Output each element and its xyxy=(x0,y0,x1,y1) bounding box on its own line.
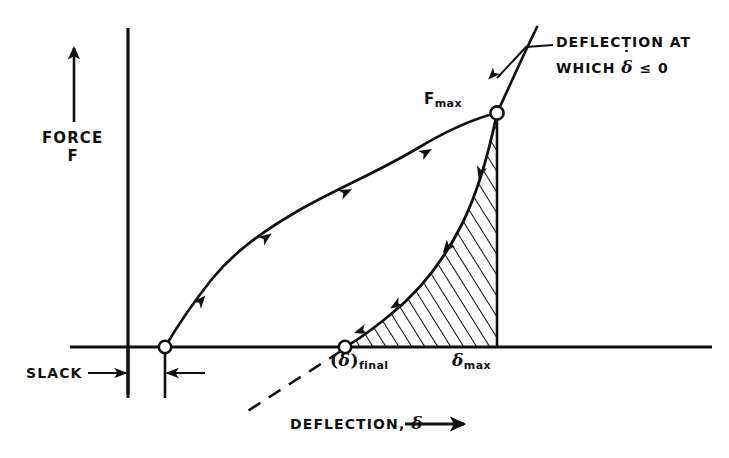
f-max-label: Fmax xyxy=(424,92,462,110)
delta-final-open-paren: ( xyxy=(330,350,339,370)
x-axis-label-text: DEFLECTION, xyxy=(290,416,405,432)
delta-max-symbol: δ xyxy=(452,350,464,370)
f-max-main: F xyxy=(424,90,435,108)
annotation-line-2-prefix: WHICH xyxy=(556,60,615,76)
figure-root: FORCE F SLACK Fmax (δ)final δmax DEFLECT… xyxy=(0,0,729,458)
y-axis-label: FORCE F xyxy=(42,131,103,165)
delta-final-label: (δ)final xyxy=(330,352,389,372)
y-axis-label-line2: F xyxy=(42,149,103,165)
loading-arrowheads xyxy=(193,145,434,309)
y-axis-label-line1: FORCE xyxy=(42,129,103,147)
marker-slack-end xyxy=(159,341,171,353)
x-axis-symbol: δ xyxy=(411,413,423,433)
annotation-line-1: DEFLECTION AT xyxy=(556,32,691,54)
deflection-annotation: DEFLECTION AT WHICH δ ≤ 0 xyxy=(556,32,691,80)
x-axis-label: DEFLECTION, δ xyxy=(290,415,424,433)
annotation-line-2: WHICH δ ≤ 0 xyxy=(556,54,691,80)
delta-final-leader xyxy=(243,351,341,414)
marker-f-max xyxy=(490,106,503,119)
slack-dimension xyxy=(88,347,205,398)
annotation-line-2-suffix: ≤ 0 xyxy=(639,60,668,76)
delta-final-subscript: final xyxy=(359,359,389,372)
slack-label: SLACK xyxy=(26,366,82,381)
delta-max-subscript: max xyxy=(464,359,491,372)
overshoot-tail xyxy=(497,27,537,113)
delta-dot-symbol: δ xyxy=(621,54,633,80)
delta-final-symbol: δ xyxy=(339,350,351,370)
delta-max-label: δmax xyxy=(452,352,491,372)
delta-final-close-paren: ) xyxy=(350,350,359,370)
recovered-energy-region xyxy=(345,113,497,347)
f-max-subscript: max xyxy=(435,97,462,110)
